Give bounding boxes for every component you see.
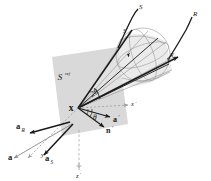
incidence-angle-label: θ	[93, 113, 97, 122]
axis-z-prime-label: z	[75, 172, 79, 179]
receiver-projection-mark: ′	[174, 52, 175, 57]
diagram-canvas: S ref x x ′ y ′ z ′ S R S ′ R	[0, 0, 211, 181]
surface-label-S: S	[58, 72, 63, 82]
axis-x-prime-label-group: x ′	[130, 100, 137, 107]
vector-a-S-label-group: a S	[45, 153, 54, 165]
vector-n-prime-label: n	[106, 126, 111, 135]
vertex-label-x: x	[69, 103, 74, 113]
vector-a-prime-mark: ′	[119, 114, 120, 120]
axis-z-prime-line	[77, 130, 82, 170]
vector-a-label: a	[8, 152, 13, 162]
source-projection-label: S	[123, 28, 126, 34]
source-projection-mark: ′	[127, 27, 128, 32]
vector-a-S-label: a	[45, 153, 50, 163]
axis-y-prime-label: y	[40, 151, 44, 158]
vector-a-S-subscript: S	[51, 159, 54, 165]
surface-label-superscript: ref	[65, 71, 71, 76]
axis-z-prime-mark: ′	[80, 172, 81, 177]
axis-x-prime-mark: ′	[136, 101, 137, 106]
source-ray-label: S	[139, 3, 143, 11]
scattering-geometry-figure: S ref x x ′ y ′ z ′ S R S ′ R	[0, 0, 211, 181]
vector-a-R-label-group: a R	[16, 121, 26, 133]
vector-n-prime-mark: ′	[112, 125, 113, 131]
vector-n-prime-label-group: n ′	[106, 125, 113, 135]
receiver-ray-label: R	[192, 10, 198, 18]
vector-a-prime-label: a	[113, 115, 117, 124]
axis-z-prime-label-group: z ′	[75, 172, 81, 179]
axis-x-prime-label: x	[130, 100, 134, 107]
vector-a-R-label: a	[16, 121, 21, 131]
vector-a-R-subscript: R	[21, 127, 26, 133]
